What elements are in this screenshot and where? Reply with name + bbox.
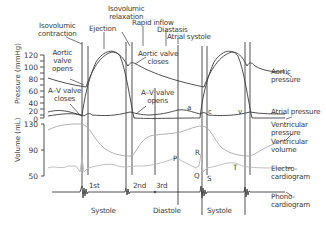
label-atrial-systole: Atrial systole — [167, 33, 211, 41]
label-r-wave: R — [195, 149, 200, 157]
atrial-pressure-curve — [48, 110, 285, 116]
pressure-tick: 120 — [22, 51, 38, 60]
label-c-wave: c — [208, 108, 212, 116]
volume-axis — [41, 124, 44, 176]
label-q-wave: Q — [194, 172, 199, 180]
label-v-wave: v — [238, 108, 242, 116]
volume-tick: 90 — [22, 146, 38, 155]
label-atrial-pressure: Atrial pressure — [271, 108, 320, 116]
label-diastole: Diastole — [153, 207, 181, 215]
label-t-wave: T — [233, 164, 237, 172]
label-av-valve-closes: A–V valve closes — [48, 87, 81, 103]
label-aortic-pressure: Aortic pressure — [271, 68, 300, 84]
label-ejection: Ejection — [89, 25, 116, 33]
label-heart-sound-3rd: 3rd — [156, 182, 167, 190]
label-systole: Systole — [91, 207, 116, 215]
label-isovolumic-contraction: Isovolumic contraction — [38, 22, 77, 38]
pressure-tick: 80 — [22, 75, 38, 84]
pressure-axis-label: Pressure (mmHg) — [14, 43, 22, 104]
label-av-valve-opens: A–V valve opens — [141, 89, 174, 105]
pressure-tick: 100 — [22, 63, 38, 72]
wiggers-diagram: Pressure (mmHg) Volume (mL) 120 100 80 6… — [0, 0, 326, 229]
label-a-wave: a — [187, 104, 191, 112]
label-electrocardiogram: Electro- cardiogram — [271, 165, 310, 181]
volume-tick: 50 — [22, 172, 38, 181]
volume-axis-label: Volume (mL) — [14, 118, 22, 162]
label-p-wave: P — [173, 155, 177, 163]
label-systole-2: Systole — [207, 207, 232, 215]
ecg-curve — [48, 154, 285, 172]
pressure-tick: 60 — [22, 87, 38, 96]
volume-tick: 130 — [22, 120, 38, 129]
label-aortic-valve-opens: Aortic valve opens — [52, 49, 73, 73]
label-ventricular-pressure: Ventricular pressure — [271, 121, 308, 137]
label-ventricular-volume: Ventricular volume — [271, 138, 308, 154]
label-heart-sound-2nd: 2nd — [133, 182, 146, 190]
label-aortic-valve-closes: Aortic valve closes — [138, 50, 178, 66]
label-heart-sound-1st: 1st — [89, 182, 100, 190]
label-s-wave: S — [207, 175, 211, 183]
phonocardiogram-curve — [52, 186, 285, 198]
label-phonocardiogram: Phono- cardiogram — [271, 193, 310, 209]
ventricular-volume-curve — [48, 124, 285, 156]
